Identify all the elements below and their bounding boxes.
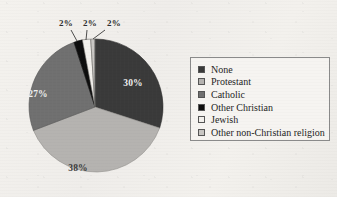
legend-label-jewish: Jewish [211, 114, 238, 125]
legend-item-other-christian: Other Christian [198, 101, 323, 114]
legend-item-none: None [198, 63, 323, 76]
legend-label-catholic: Catholic [211, 89, 245, 100]
pie-label-none: 30% [123, 78, 143, 88]
legend-swatch-catholic [198, 91, 205, 98]
legend-item-protestant: Protestant [198, 76, 323, 89]
legend-item-catholic: Catholic [198, 88, 323, 101]
chart-legend: None Protestant Catholic Other Christian… [190, 57, 330, 141]
pie-label-jewish: 2% [83, 18, 97, 28]
legend-item-jewish: Jewish [198, 113, 323, 126]
pie-chart-svg: 30% 38% 27% 2% 2% 2% [6, 14, 184, 192]
pie-label-protestant: 38% [68, 163, 88, 173]
legend-swatch-other-non-christian [198, 129, 205, 136]
legend-label-protestant: Protestant [211, 76, 251, 87]
legend-swatch-other-christian [198, 104, 205, 111]
pie-leader-other-non-christian [93, 30, 105, 39]
legend-item-other-non-christian: Other non-Christian religion [198, 126, 323, 139]
legend-label-other-non-christian: Other non-Christian religion [211, 127, 325, 138]
pie-label-other-christian: 2% [59, 18, 73, 28]
pie-label-catholic: 27% [28, 89, 48, 99]
legend-swatch-protestant [198, 78, 205, 85]
legend-swatch-jewish [198, 116, 205, 123]
legend-swatch-none [198, 66, 205, 73]
pie-leader-other-christian [71, 30, 77, 41]
legend-label-none: None [211, 64, 233, 75]
pie-leader-jewish [86, 30, 87, 40]
pie-label-other-non-christian: 2% [107, 18, 121, 28]
legend-label-other-christian: Other Christian [211, 102, 273, 113]
pie-chart-figure: 30% 38% 27% 2% 2% 2% [6, 14, 184, 192]
